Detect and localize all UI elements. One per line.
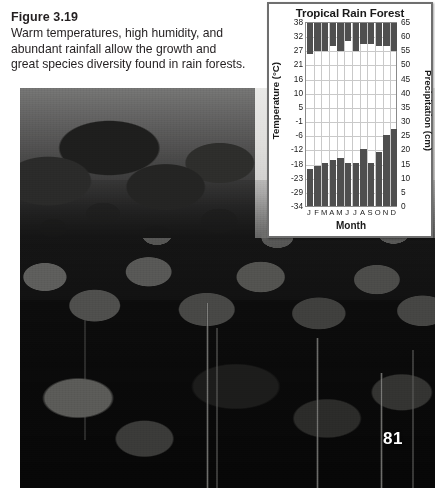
precipitation-bar <box>322 163 328 206</box>
x-tick-n-10: N <box>383 208 388 217</box>
x-tick-j-6: J <box>353 208 357 217</box>
temperature-bar <box>391 23 397 51</box>
temperature-bar <box>307 23 313 54</box>
y-tick-right: 20 <box>401 145 423 153</box>
precipitation-bar <box>383 135 389 206</box>
x-axis-tick-labels: JFMAMJJASOND <box>305 208 397 220</box>
temperature-bar <box>337 23 343 51</box>
x-tick-a-3: A <box>329 208 334 217</box>
y-tick-left: 21 <box>281 60 303 68</box>
precipitation-bar <box>337 158 343 206</box>
y-tick-right: 45 <box>401 75 423 83</box>
caption-line-2: abundant rainfall allow the growth and <box>11 42 263 58</box>
precipitation-bar <box>368 163 374 206</box>
y-tick-right: 25 <box>401 131 423 139</box>
x-tick-f-1: F <box>314 208 319 217</box>
figure-caption-block: Figure 3.19 Warm temperatures, high humi… <box>11 10 263 73</box>
y-tick-right: 30 <box>401 117 423 125</box>
x-tick-m-4: M <box>336 208 342 217</box>
y-tick-left: 16 <box>281 75 303 83</box>
y-tick-left: -29 <box>281 188 303 196</box>
precipitation-bar <box>345 163 351 206</box>
plot-area <box>305 22 397 207</box>
y-axis-right-ticks: 65605550454035302520151050 <box>401 22 423 207</box>
y-tick-left: -6 <box>281 131 303 139</box>
y-tick-left: 10 <box>281 89 303 97</box>
x-tick-a-7: A <box>360 208 365 217</box>
y-tick-right: 40 <box>401 89 423 97</box>
precipitation-bar <box>314 166 320 206</box>
temperature-bar <box>330 23 336 46</box>
x-tick-o-9: O <box>375 208 381 217</box>
precipitation-bar <box>391 129 397 206</box>
temperature-bar <box>322 23 328 51</box>
temperature-bar <box>360 23 366 44</box>
y-tick-right: 15 <box>401 160 423 168</box>
y-tick-right: 50 <box>401 60 423 68</box>
temperature-bar <box>314 23 320 51</box>
y-tick-left: 38 <box>281 18 303 26</box>
precipitation-bar <box>376 152 382 206</box>
y-tick-right: 10 <box>401 174 423 182</box>
y-axis-left-label: Temperature (°C) <box>270 62 281 139</box>
temperature-bar <box>368 23 374 44</box>
x-tick-j-0: J <box>307 208 311 217</box>
precipitation-bar <box>353 163 359 206</box>
y-tick-right: 5 <box>401 188 423 196</box>
y-tick-right: 60 <box>401 32 423 40</box>
figure-number: Figure 3.19 <box>11 10 263 25</box>
y-tick-right: 35 <box>401 103 423 111</box>
y-tick-right: 0 <box>401 202 423 210</box>
y-axis-right-label: Precipitation (cm) <box>423 70 434 151</box>
temperature-bar <box>345 23 351 41</box>
climograph: Tropical Rain Forest Temperature (°C) Pr… <box>267 2 433 238</box>
y-tick-left: -12 <box>281 145 303 153</box>
x-tick-d-11: D <box>390 208 395 217</box>
precipitation-bar <box>360 149 366 206</box>
y-tick-left: -23 <box>281 174 303 182</box>
y-axis-left-ticks: 3832272116105-1-6-12-18-23-29-34 <box>281 22 303 207</box>
x-tick-m-2: M <box>321 208 327 217</box>
caption-line-3: great species diversity found in rain fo… <box>11 57 263 73</box>
y-tick-left: -18 <box>281 160 303 168</box>
figure-caption-text: Warm temperatures, high humidity, and ab… <box>11 26 263 73</box>
x-tick-s-8: S <box>368 208 373 217</box>
y-tick-left: 32 <box>281 32 303 40</box>
textbook-page: Figure 3.19 Warm temperatures, high humi… <box>0 0 435 488</box>
y-tick-right: 65 <box>401 18 423 26</box>
x-tick-j-5: J <box>345 208 349 217</box>
temperature-bar <box>353 23 359 51</box>
x-axis-label: Month <box>305 220 397 231</box>
y-tick-left: -1 <box>281 117 303 125</box>
chart-area: Temperature (°C) Precipitation (cm) 3832… <box>269 22 435 222</box>
precipitation-bar <box>307 169 313 206</box>
temperature-bar <box>383 23 389 46</box>
page-number: 81 <box>383 429 403 449</box>
precipitation-bar <box>330 160 336 206</box>
caption-line-1: Warm temperatures, high humidity, and <box>11 26 263 42</box>
temperature-bar <box>376 23 382 46</box>
y-tick-left: 5 <box>281 103 303 111</box>
y-tick-left: 27 <box>281 46 303 54</box>
y-tick-right: 55 <box>401 46 423 54</box>
y-tick-left: -34 <box>281 202 303 210</box>
